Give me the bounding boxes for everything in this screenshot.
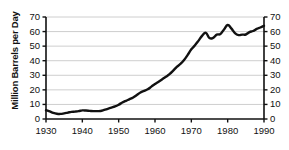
y-axis-tick-label-left: 10 [6,99,40,109]
y-axis-tick-label-right: 40 [270,56,289,66]
x-axis-tick-label: 1950 [99,126,139,136]
y-axis-tick-label-left: 60 [6,27,40,37]
oil-production-line-chart: Million Barrels per Day 010203040506070 … [0,0,289,150]
x-axis-tick-label: 1980 [208,126,248,136]
y-axis-tick-label-right: 70 [270,12,289,22]
y-axis-tick-label-left: 50 [6,41,40,51]
y-axis-tick-label-left: 20 [6,85,40,95]
x-axis-tick-label: 1940 [62,126,102,136]
x-axis-tick-label: 1960 [135,126,175,136]
y-axis-tick-label-right: 20 [270,85,289,95]
y-axis-tick-label-right: 0 [270,114,289,124]
data-series-line [46,25,264,114]
y-axis-tick-label-left: 30 [6,70,40,80]
y-axis-tick-label-left: 0 [6,114,40,124]
y-axis-tick-label-left: 70 [6,12,40,22]
y-axis-tick-label-right: 50 [270,41,289,51]
y-axis-tick-label-right: 60 [270,27,289,37]
x-axis-tick-label: 1970 [171,126,211,136]
x-axis-tick-label: 1930 [26,126,66,136]
y-axis-tick-label-right: 30 [270,70,289,80]
y-axis-tick-label-right: 10 [270,99,289,109]
x-axis-tick-label: 1990 [244,126,284,136]
y-axis-tick-label-left: 40 [6,56,40,66]
